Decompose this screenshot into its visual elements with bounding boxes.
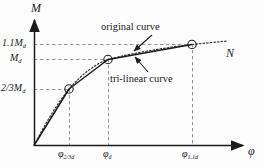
y-tick-1-1md-sub: d bbox=[23, 42, 26, 49]
y-axis-label: M bbox=[31, 2, 41, 14]
y-tick-1-1md-base: M bbox=[15, 37, 23, 48]
x-tick-phi-d-base: φ bbox=[103, 148, 109, 159]
x-tick-label-phi-d: φd bbox=[103, 149, 112, 159]
original-curve-path bbox=[34, 41, 226, 145]
y-tick-label-2-3md: 2/3Md bbox=[1, 83, 25, 93]
y-tick-2-3md-sub: d bbox=[22, 87, 25, 94]
x-tick-phi-1-1d-sub: 1.1d bbox=[188, 154, 199, 160]
annotation-original-curve: original curve bbox=[101, 22, 160, 33]
leader-tri-linear-curve bbox=[135, 57, 148, 72]
tri-linear-curve-path bbox=[34, 45, 192, 146]
annotation-tri-linear-curve: tri-linear curve bbox=[110, 74, 173, 85]
x-tick-label-phi-1-1d: φ1.1d bbox=[182, 149, 198, 159]
y-tick-2-3md-coeff: 2/3 bbox=[1, 82, 14, 93]
y-tick-label-md: Md bbox=[10, 53, 22, 63]
y-tick-1-1md-coeff: 1.1 bbox=[2, 37, 15, 48]
x-axis-label: φ bbox=[248, 145, 255, 157]
x-tick-phi-1-1d-base: φ bbox=[182, 148, 188, 159]
figure-container: M φ 1.1Md Md 2/3Md φ2/3d φd φ1.1d origin… bbox=[0, 0, 264, 167]
x-tick-phi-2-3d-base: φ bbox=[58, 148, 64, 159]
y-tick-label-1-1md: 1.1Md bbox=[2, 38, 26, 48]
leader-original-curve bbox=[134, 35, 152, 51]
y-tick-2-3md-base: M bbox=[14, 82, 22, 93]
x-tick-phi-d-sub: d bbox=[109, 154, 112, 160]
y-tick-md-sub: d bbox=[18, 57, 21, 64]
x-tick-label-phi-2-3d: φ2/3d bbox=[58, 149, 74, 159]
curve-node-markers bbox=[65, 40, 196, 93]
annotation-axial-force-n: N bbox=[226, 47, 234, 59]
vertical-guides bbox=[70, 44, 193, 146]
x-tick-phi-2-3d-sub: 2/3d bbox=[64, 154, 75, 160]
